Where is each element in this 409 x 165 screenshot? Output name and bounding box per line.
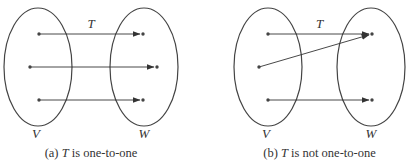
element-point xyxy=(370,32,373,35)
panel-caption: (a) T is one-to-one xyxy=(45,146,138,160)
panel-one-to-one: TVW(a) T is one-to-one xyxy=(4,8,178,160)
domain-label: V xyxy=(32,126,42,141)
diagram-canvas: TVW(a) T is one-to-one TVW(b) T is not o… xyxy=(0,0,409,165)
codomain-label: W xyxy=(366,126,378,141)
codomain-set-ellipse xyxy=(337,8,405,126)
element-point xyxy=(141,32,144,35)
mapping-arrow xyxy=(259,35,369,67)
panel-not-one-to-one: TVW(b) T is not one-to-one xyxy=(234,8,405,160)
codomain-label: W xyxy=(139,126,151,141)
element-point xyxy=(37,32,40,35)
element-point xyxy=(37,98,40,101)
map-label: T xyxy=(87,16,95,31)
element-point xyxy=(266,32,269,35)
element-point xyxy=(141,98,144,101)
element-point xyxy=(370,98,373,101)
element-point xyxy=(257,65,260,68)
domain-label: V xyxy=(262,126,272,141)
element-point xyxy=(28,65,31,68)
panel-caption: (b) T is not one-to-one xyxy=(263,146,376,160)
domain-set-ellipse xyxy=(234,8,302,126)
map-label: T xyxy=(316,16,324,31)
element-point xyxy=(266,98,269,101)
element-point xyxy=(155,65,158,68)
